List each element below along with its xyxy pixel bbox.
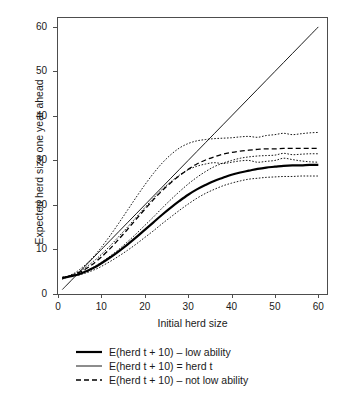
x-tick-mark [275, 294, 276, 298]
plot-svg [58, 18, 327, 294]
chart-legend: E(herd t + 10) – low abilityE(herd t + 1… [76, 345, 316, 387]
legend-line-swatch [76, 346, 102, 358]
x-tick-mark [58, 294, 59, 298]
plot-area [57, 17, 328, 295]
y-tick-label: 0 [21, 289, 47, 299]
y-tick-mark [53, 160, 57, 161]
x-tick-label: 10 [88, 302, 114, 312]
legend-label: E(herd t + 10) – low ability [109, 346, 231, 358]
series-line [62, 176, 318, 277]
x-tick-mark [145, 294, 146, 298]
y-tick-label: 60 [21, 22, 47, 32]
y-tick-mark [53, 27, 57, 28]
x-axis-title: Initial herd size [57, 317, 328, 329]
legend-line-swatch [76, 374, 102, 386]
legend-line-swatch [76, 360, 102, 372]
legend-label: E(herd t + 10) – not low ability [109, 374, 248, 386]
series-line [62, 27, 318, 290]
y-axis-title: Expected herd size one year ahead [33, 37, 45, 287]
legend-item: E(herd t + 10) = herd t [76, 359, 316, 373]
series-line [62, 158, 318, 279]
legend-item: E(herd t + 10) – not low ability [76, 373, 316, 387]
legend-item: E(herd t + 10) – low ability [76, 345, 316, 359]
series-line [62, 148, 318, 278]
x-tick-label: 50 [262, 302, 288, 312]
series-line [62, 165, 318, 278]
chart-figure: 0102030405060 0102030405060 Initial herd… [0, 0, 348, 401]
y-tick-mark [53, 294, 57, 295]
x-tick-mark [318, 294, 319, 298]
x-tick-label: 30 [175, 302, 201, 312]
x-tick-mark [188, 294, 189, 298]
series-line [62, 153, 318, 277]
x-tick-label: 20 [132, 302, 158, 312]
x-tick-mark [232, 294, 233, 298]
x-tick-label: 0 [45, 302, 71, 312]
legend-label: E(herd t + 10) = herd t [109, 360, 212, 372]
y-tick-mark [53, 116, 57, 117]
x-tick-label: 40 [219, 302, 245, 312]
y-tick-mark [53, 71, 57, 72]
y-tick-mark [53, 249, 57, 250]
x-tick-mark [101, 294, 102, 298]
x-tick-label: 60 [305, 302, 331, 312]
y-tick-mark [53, 205, 57, 206]
